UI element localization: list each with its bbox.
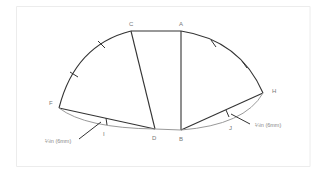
leader-left: [79, 122, 101, 139]
tick-mark: [242, 61, 247, 68]
line-db: [155, 129, 181, 130]
perp-j: [226, 110, 229, 117]
frame-border-left-bottom: [17, 80, 154, 167]
point-label-j: J: [229, 125, 232, 131]
frame-border-right-bottom: [153, 80, 310, 167]
line-cd: [131, 31, 155, 129]
point-label-h: H: [272, 88, 276, 94]
annotation-right: ¼in (6mm): [255, 122, 281, 128]
diagram-canvas: C A F H I J D B ¼in (6mm) ¼in (6mm): [0, 0, 328, 174]
line-fd: [59, 108, 155, 129]
frame-border-top: [17, 7, 311, 81]
leader-right: [231, 114, 250, 124]
point-label-i: I: [103, 131, 105, 137]
arc-fc: [59, 31, 131, 108]
perp-i: [106, 118, 107, 125]
point-label-c: C: [129, 21, 134, 27]
point-label-f: F: [49, 100, 53, 106]
annotation-left: ¼in (6mm): [45, 138, 71, 144]
line-bh: [181, 93, 263, 130]
point-label-b: B: [179, 136, 183, 142]
point-label-d: D: [152, 135, 157, 141]
point-label-a: A: [179, 21, 183, 27]
arc-ah: [181, 31, 263, 93]
